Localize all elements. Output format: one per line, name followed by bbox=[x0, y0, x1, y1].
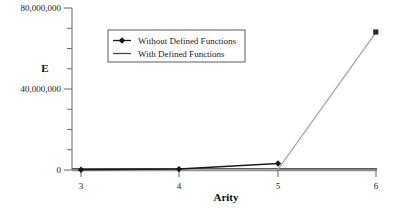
x-axis-title: Arity bbox=[213, 191, 239, 203]
y-tick-label-40m: 40,000,000 bbox=[21, 84, 62, 94]
chart-container: 80,000,000 40,000,000 0 E 3 4 5 6 Arity bbox=[0, 0, 394, 209]
series-point-with-defined-functions-arity-6 bbox=[373, 29, 378, 34]
y-tick-label-0: 0 bbox=[57, 165, 62, 175]
legend: Without Defined Functions With Defined F… bbox=[108, 30, 245, 62]
line-chart: 80,000,000 40,000,000 0 E 3 4 5 6 Arity bbox=[0, 0, 394, 209]
x-tick-label-6: 6 bbox=[374, 181, 379, 191]
legend-label-without-defined-functions: Without Defined Functions bbox=[138, 36, 237, 46]
x-tick-label-3: 3 bbox=[79, 181, 84, 191]
series-point-without-defined-functions-arity-3 bbox=[78, 167, 84, 173]
x-tick-label-5: 5 bbox=[276, 181, 281, 191]
x-tick-label-4: 4 bbox=[177, 181, 182, 191]
y-tick-label-80m: 80,000,000 bbox=[21, 3, 62, 13]
y-axis-title: E bbox=[41, 62, 48, 74]
series-point-without-defined-functions-arity-4 bbox=[176, 166, 182, 172]
legend-label-with-defined-functions: With Defined Functions bbox=[138, 49, 225, 59]
